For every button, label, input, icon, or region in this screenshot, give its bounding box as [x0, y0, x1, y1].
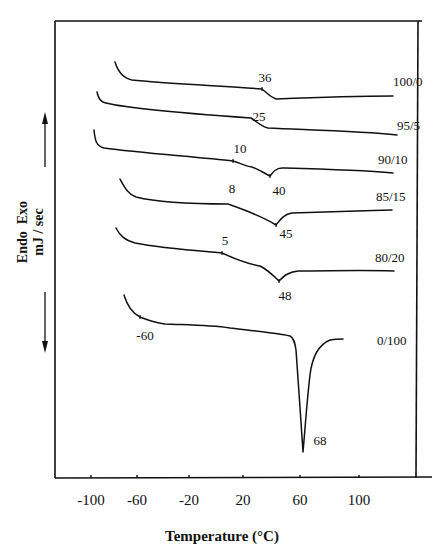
transition-label: 36	[259, 70, 273, 85]
frame-right	[416, 21, 418, 478]
series-label: 0/100	[377, 333, 407, 348]
dsc-curve	[120, 179, 392, 225]
x-tick-label: 20	[236, 492, 251, 508]
series-100-0: 36 100/0	[115, 62, 423, 99]
x-tick-label: 60	[293, 492, 308, 508]
dsc-curve	[124, 295, 343, 452]
transition-label: 68	[314, 433, 327, 448]
x-axis-title: Temperature (°C)	[165, 528, 279, 545]
arrow-down-icon	[42, 341, 48, 353]
transition-label: 48	[279, 288, 292, 303]
transition-label: -60	[136, 328, 153, 343]
x-tick-label: -60	[127, 492, 147, 508]
series-80-20: 5 48 80/20	[116, 228, 405, 303]
transition-label: 8	[229, 181, 236, 196]
series-85-15: 8 45 85/15	[120, 179, 406, 241]
dsc-curve	[97, 92, 397, 135]
series-label: 90/10	[378, 152, 408, 167]
transition-label: 5	[222, 233, 229, 248]
transition-label: 25	[253, 109, 266, 124]
dsc-chart: -100 -60 -20 20 60 100 Temperature (°C) …	[0, 0, 444, 555]
dsc-curve	[116, 228, 394, 281]
series-label: 95/5	[397, 118, 420, 133]
transition-label: 40	[273, 183, 286, 198]
arrow-up-icon	[42, 112, 48, 124]
x-tick-label: -20	[179, 492, 199, 508]
dsc-curve	[115, 62, 393, 99]
series-0-100: -60 68 0/100	[124, 295, 407, 452]
x-tick-labels: -100 -60 -20 20 60 100	[77, 492, 370, 508]
y-axis-direction-label: Endo Exo	[15, 201, 30, 263]
x-tick-label: -100	[77, 492, 105, 508]
series-label: 80/20	[375, 250, 405, 265]
x-tick-label: 100	[348, 492, 371, 508]
series-label: 100/0	[393, 74, 423, 89]
series-95-5: 25 95/5	[97, 92, 420, 135]
transition-label: 10	[234, 141, 247, 156]
series-90-10: 10 40 90/10	[94, 130, 408, 198]
y-axis-units-label: mJ / sec	[31, 208, 46, 255]
transition-label: 45	[280, 226, 293, 241]
series-label: 85/15	[376, 189, 406, 204]
